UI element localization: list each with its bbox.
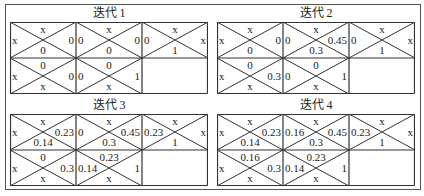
cell-value-right: 0 [276, 35, 282, 46]
cell-value-left: 0 [78, 71, 84, 82]
grid-cell: 0.16x0.3x [217, 150, 283, 186]
cell-value-bottom: x [283, 81, 349, 92]
cell-value-right: 0 [69, 35, 75, 46]
panel-title: 迭代 3 [10, 96, 208, 114]
cell-value-right: 0 [135, 35, 141, 46]
cell-value-bottom: 0 [10, 45, 76, 56]
cell-value-left: 0.14 [285, 163, 304, 174]
cell-value-bottom: 0.3 [283, 137, 349, 148]
cell-value-left: x [219, 127, 225, 138]
cell-value-bottom: x [217, 81, 283, 92]
cell-value-bottom: 1 [349, 137, 415, 148]
cell-value-right: 0.45 [328, 127, 347, 138]
cell-value-bottom: x [283, 173, 349, 184]
grid-cell: x000 [76, 22, 142, 58]
cell-value-right: x [201, 127, 207, 138]
grid-cell: x0.23x1 [349, 114, 415, 150]
iteration-panel-4: 迭代 4xx0.230.14x0.160.450.3x0.23x10.16x0.… [217, 96, 415, 188]
grid-cell: x0x1 [142, 22, 208, 58]
cell-value-left: 0 [78, 127, 84, 138]
grid-cell: x00.450.3 [76, 114, 142, 150]
grid-cell: x0x1 [349, 22, 415, 58]
grid-cell: 0x0.3x [217, 58, 283, 94]
value-grid: xx0.230.14x00.450.3x0.23x10x0.3x0.230.14… [10, 114, 208, 186]
grid-cell: xx00 [217, 22, 283, 58]
cell-value-left: x [12, 163, 18, 174]
cell-value-top: x [217, 24, 283, 35]
grid-cell: 0.230.141x [76, 150, 142, 186]
cell-value-left: 0 [144, 35, 150, 46]
grid-cell: 0.230.141x [283, 150, 349, 186]
cell-value-right: 1 [342, 71, 348, 82]
cell-value-left: 0 [78, 35, 84, 46]
grid-cell: x00.450.3 [283, 22, 349, 58]
cell-value-right: 0.3 [267, 71, 281, 82]
iteration-panel-1: 迭代 1xx00x000x0x10x0x001x [10, 4, 208, 96]
cell-value-right: 1 [135, 71, 141, 82]
value-grid: xx00x000x0x10x0x001x [10, 22, 208, 94]
cell-value-left: x [219, 163, 225, 174]
cell-value-right: 0.45 [121, 127, 140, 138]
cell-value-left: x [12, 71, 18, 82]
cell-value-right: 0.45 [328, 35, 347, 46]
cell-value-top: 0 [10, 60, 76, 71]
value-grid: xx0.230.14x0.160.450.3x0.23x10.16x0.3x0.… [217, 114, 415, 186]
cell-value-bottom: x [76, 173, 142, 184]
panel-title: 迭代 1 [10, 4, 208, 22]
cell-value-bottom: 0 [217, 45, 283, 56]
cell-value-right: 1 [342, 163, 348, 174]
cell-value-left: x [12, 35, 18, 46]
cell-value-left: 0.16 [285, 127, 304, 138]
cell-value-right: x [408, 127, 414, 138]
grid-cell: xx00 [10, 22, 76, 58]
cell-value-bottom: x [10, 173, 76, 184]
cell-value-left: 0 [285, 35, 291, 46]
cell-value-bottom: 1 [349, 45, 415, 56]
grid-cell: 001x [283, 58, 349, 94]
cell-value-right: 1 [135, 163, 141, 174]
cell-value-top: 0 [76, 60, 142, 71]
cell-value-left: 0 [351, 35, 357, 46]
cell-value-left: x [219, 71, 225, 82]
cell-value-right: 0.23 [55, 127, 74, 138]
grid-cell: x0.160.450.3 [283, 114, 349, 150]
cell-value-top: x [76, 24, 142, 35]
grid-cell: 0x0.3x [10, 150, 76, 186]
panel-title: 迭代 4 [217, 96, 415, 114]
grid-cell: 0x0x [10, 58, 76, 94]
cell-value-left: x [12, 127, 18, 138]
cell-value-right: 0.3 [60, 163, 74, 174]
cell-value-left: 0.23 [351, 127, 370, 138]
value-grid: xx00x00.450.3x0x10x0.3x001x [217, 22, 415, 94]
cell-value-right: 0 [69, 71, 75, 82]
grid-cell: 001x [76, 58, 142, 94]
cell-value-right: x [201, 35, 207, 46]
iteration-panel-3: 迭代 3xx0.230.14x00.450.3x0.23x10x0.3x0.23… [10, 96, 208, 188]
grid-cell: xx0.230.14 [10, 114, 76, 150]
cell-value-top: x [10, 24, 76, 35]
grid-cell: xx0.230.14 [217, 114, 283, 150]
cell-value-bottom: 0.3 [283, 45, 349, 56]
cell-value-bottom: 0 [76, 45, 142, 56]
cell-value-left: x [219, 35, 225, 46]
cell-value-left: 0.14 [78, 163, 97, 174]
cell-value-top: 0 [283, 60, 349, 71]
cell-value-left: 0 [285, 71, 291, 82]
cell-value-bottom: 1 [142, 137, 208, 148]
cell-value-top: x [349, 24, 415, 35]
cell-value-left: 0.23 [144, 127, 163, 138]
cell-value-bottom: x [10, 81, 76, 92]
cell-value-right: 0.23 [262, 127, 281, 138]
cell-value-right: 0.3 [267, 163, 281, 174]
grid-cell: x0.23x1 [142, 114, 208, 150]
cell-value-bottom: 1 [142, 45, 208, 56]
cell-value-bottom: 0.3 [76, 137, 142, 148]
cell-value-bottom: 0.14 [217, 137, 283, 148]
cell-value-bottom: x [76, 81, 142, 92]
cell-value-top: x [142, 24, 208, 35]
panel-title: 迭代 2 [217, 4, 415, 22]
cell-value-bottom: 0.14 [10, 137, 76, 148]
cell-value-right: x [408, 35, 414, 46]
cell-value-bottom: x [217, 173, 283, 184]
iteration-panel-2: 迭代 2xx00x00.450.3x0x10x0.3x001x [217, 4, 415, 96]
